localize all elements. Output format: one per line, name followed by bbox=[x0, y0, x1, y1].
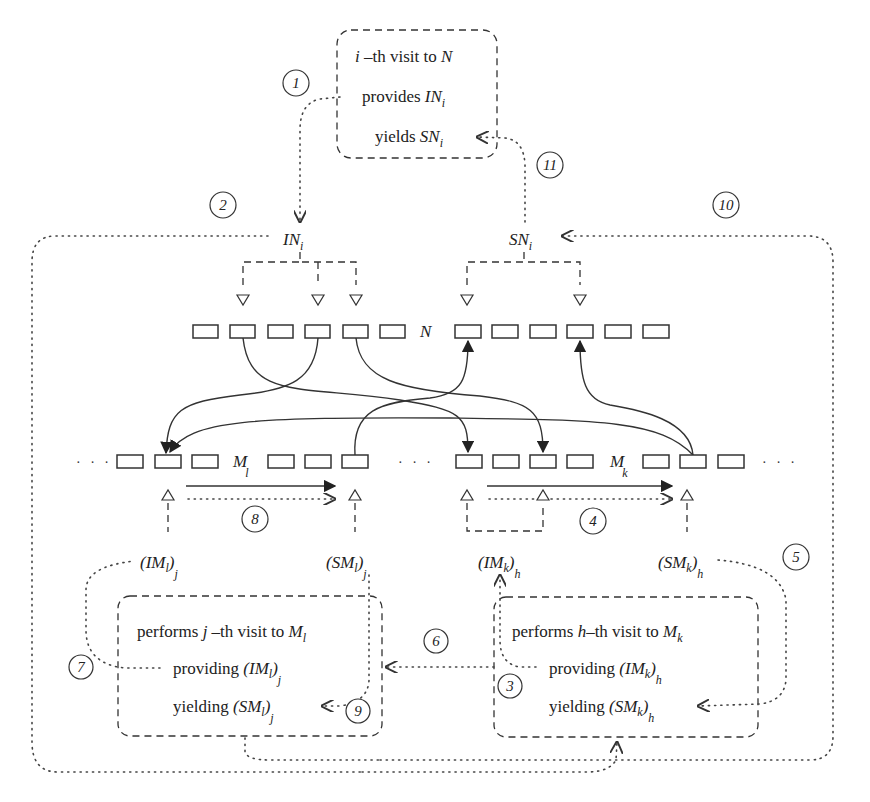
flow-1-dotted bbox=[300, 97, 340, 222]
flow-bottom-dotted bbox=[245, 738, 380, 760]
flow-5-dotted bbox=[698, 560, 786, 706]
label-IN-i: INi bbox=[282, 230, 303, 253]
label-IMk-h: (IMk)h bbox=[478, 553, 520, 581]
svg-text:2: 2 bbox=[219, 197, 227, 213]
svg-text:provides INi: provides INi bbox=[362, 87, 445, 110]
flow-3-dotted bbox=[500, 575, 536, 667]
svg-text:3: 3 bbox=[505, 678, 514, 694]
svg-text:· · ·: · · · bbox=[398, 455, 434, 470]
svg-text:· · ·: · · · bbox=[76, 455, 112, 470]
svg-text:performs h–th visit to Mk: performs h–th visit to Mk bbox=[512, 622, 683, 645]
svg-text:4: 4 bbox=[589, 513, 597, 529]
right-visit-box: performs h–th visit to Mk providing (IMk… bbox=[494, 597, 758, 737]
svg-text:providing (IMk)h: providing (IMk)h bbox=[549, 659, 662, 687]
svg-text:11: 11 bbox=[543, 157, 557, 173]
flow-2-dotted-loop bbox=[32, 236, 362, 772]
flow-7-dotted bbox=[86, 561, 160, 668]
top-visit-box: i –th visit to N provides INi yields SNi bbox=[337, 30, 497, 158]
step-marker-2: 2 bbox=[210, 192, 236, 218]
step-marker-5: 5 bbox=[783, 544, 809, 570]
svg-text:yields SNi: yields SNi bbox=[375, 127, 443, 150]
svg-text:yielding (SMk)h: yielding (SMk)h bbox=[549, 697, 654, 725]
label-Mk: Mk bbox=[609, 452, 628, 480]
SN-distribution bbox=[461, 252, 586, 305]
svg-text:8: 8 bbox=[251, 511, 259, 527]
svg-text:yielding (SMl)j: yielding (SMl)j bbox=[173, 697, 274, 725]
flow-9-dotted bbox=[322, 575, 369, 706]
IN-distribution bbox=[237, 252, 362, 305]
step-marker-8: 8 bbox=[242, 506, 268, 532]
label-SN-i: SNi bbox=[509, 230, 532, 253]
step-marker-4: 4 bbox=[580, 508, 606, 534]
label-Ml: Ml bbox=[232, 452, 249, 480]
step-marker-9: 9 bbox=[346, 699, 370, 723]
step-marker-7: 7 bbox=[69, 655, 93, 679]
visit-flow-diagram: i –th visit to N provides INi yields SNi… bbox=[0, 0, 870, 802]
label-IMl-j: (IMl)j bbox=[140, 553, 179, 581]
step-marker-10: 10 bbox=[713, 192, 739, 218]
flow-10-dotted-loop bbox=[380, 236, 833, 760]
svg-text:9: 9 bbox=[354, 703, 362, 719]
svg-text:10: 10 bbox=[719, 197, 735, 213]
step-marker-11: 11 bbox=[537, 152, 563, 178]
mapping-arrows bbox=[166, 338, 693, 455]
svg-text:6: 6 bbox=[432, 633, 440, 649]
flow-11-dotted bbox=[477, 137, 525, 222]
svg-text:i –th visit to N: i –th visit to N bbox=[355, 47, 454, 66]
svg-text:1: 1 bbox=[292, 75, 300, 91]
step-marker-1: 1 bbox=[283, 70, 309, 96]
svg-text:N: N bbox=[419, 322, 433, 341]
memory-row-M: · · · Ml · · · Mk · · · bbox=[76, 452, 798, 480]
left-visit-box: performs j –th visit to Ml providing (IM… bbox=[118, 596, 382, 736]
svg-text:5: 5 bbox=[792, 549, 800, 565]
svg-text:performs j –th visit to Ml: performs j –th visit to Ml bbox=[137, 622, 307, 645]
input-output-pointers bbox=[162, 490, 693, 532]
label-SMl-j: (SMl)j bbox=[326, 553, 367, 581]
memory-row-N: N bbox=[193, 322, 669, 341]
flow-bottom-arrow-dotted bbox=[362, 742, 617, 772]
step-marker-6: 6 bbox=[424, 629, 448, 653]
svg-text:providing (IMl)j: providing (IMl)j bbox=[173, 659, 282, 687]
label-SMk-h: (SMk)h bbox=[658, 553, 703, 581]
svg-text:· · ·: · · · bbox=[762, 455, 798, 470]
step-marker-3: 3 bbox=[498, 674, 522, 698]
